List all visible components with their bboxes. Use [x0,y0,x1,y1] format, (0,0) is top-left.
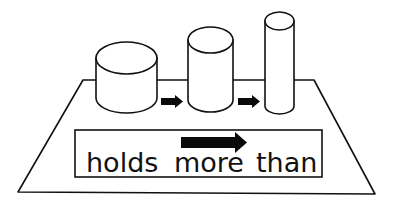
label-word-more: more [174,147,244,178]
label-word-holds: holds [86,147,158,178]
comparison-diagram: holds more than [0,0,393,206]
medium-cylinder [188,27,233,112]
tall-narrow-cylinder [265,12,294,114]
label-word-than: than [256,147,317,178]
wide-short-cylinder [96,42,157,113]
small-right-arrow-icon [161,95,183,108]
small-right-arrow-icon [238,95,260,108]
